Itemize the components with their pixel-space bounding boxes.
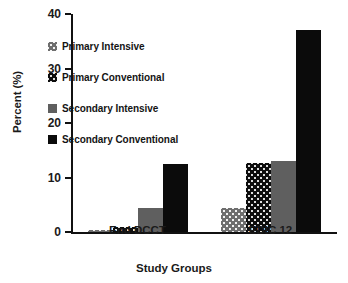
bar-chart: Percent (%) 010203040 End DCCTEDIC 12 St… bbox=[0, 0, 348, 283]
legend-swatch-icon bbox=[48, 135, 57, 144]
legend-item: Primary Conventional bbox=[48, 65, 178, 89]
legend-swatch-icon bbox=[48, 104, 57, 113]
y-tick-mark bbox=[65, 13, 71, 15]
bar bbox=[296, 30, 321, 232]
y-tick-label: 0 bbox=[54, 225, 61, 239]
legend-label: Primary Intensive bbox=[62, 41, 145, 52]
y-tick-label: 10 bbox=[48, 171, 61, 185]
y-tick-mark bbox=[65, 177, 71, 179]
bar bbox=[246, 163, 271, 232]
legend-item: Secondary Intensive bbox=[48, 96, 178, 120]
category-label: End DCCT bbox=[109, 224, 166, 236]
y-tick-mark bbox=[65, 231, 71, 233]
legend-label: Primary Conventional bbox=[62, 72, 164, 83]
bar bbox=[163, 164, 188, 232]
legend-swatch-icon bbox=[48, 42, 57, 51]
legend-item: Primary Intensive bbox=[48, 34, 178, 58]
legend: Primary IntensivePrimary ConventionalSec… bbox=[48, 34, 178, 158]
bar bbox=[221, 208, 246, 232]
legend-swatch-icon bbox=[48, 73, 57, 82]
bar bbox=[271, 161, 296, 232]
legend-label: Secondary Intensive bbox=[62, 103, 158, 114]
y-axis-title: Percent (%) bbox=[11, 47, 23, 157]
legend-label: Secondary Conventional bbox=[62, 134, 178, 145]
category-label: EDIC 12 bbox=[249, 224, 292, 236]
x-axis-title: Study Groups bbox=[0, 262, 348, 274]
y-tick-label: 40 bbox=[48, 7, 61, 21]
legend-item: Secondary Conventional bbox=[48, 127, 178, 151]
